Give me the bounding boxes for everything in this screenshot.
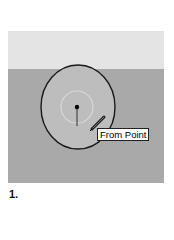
step-number: 1.: [9, 188, 18, 200]
from-point-tooltip: From Point: [97, 128, 149, 141]
center-point: [75, 105, 79, 109]
drawing-viewport[interactable]: From Point: [8, 31, 164, 183]
circle-drawing: [8, 31, 164, 183]
